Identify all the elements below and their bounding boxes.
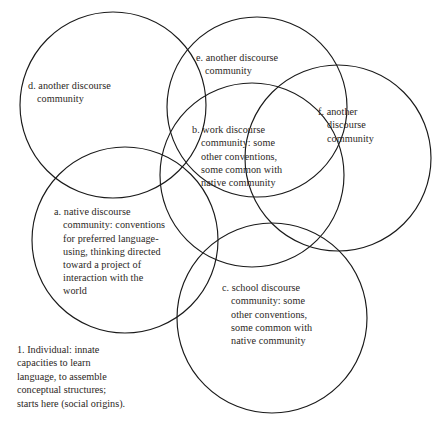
venn-label-c-text: c. school discourse community: some othe… [222, 281, 340, 347]
venn-label-e: e. another discourse community [196, 38, 321, 91]
venn-label-f: f. another discourse community [318, 92, 410, 158]
venn-label-b-text: b. work discourse community: some other … [192, 123, 314, 189]
venn-label-a: a. native discourse community: conventio… [54, 192, 192, 311]
venn-label-d: d. another discourse community [28, 66, 160, 119]
venn-label-b: b. work discourse community: some other … [192, 110, 314, 202]
venn-label-c: c. school discourse community: some othe… [222, 268, 340, 360]
venn-diagram: d. another discourse community e. anothe… [0, 0, 443, 432]
venn-caption-individual: 1. Individual: innate capacities to lear… [17, 343, 177, 410]
venn-label-a-text: a. native discourse community: conventio… [54, 205, 192, 297]
venn-label-f-text: f. another discourse community [318, 105, 410, 145]
venn-label-e-text: e. another discourse community [196, 51, 321, 77]
venn-label-d-text: d. another discourse community [28, 79, 160, 105]
